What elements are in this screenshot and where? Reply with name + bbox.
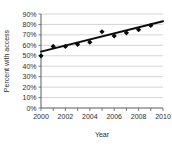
x-axis-tick-label: 2004 <box>82 113 98 120</box>
data-point <box>38 53 43 58</box>
y-axis-tick-label: 10% <box>22 94 36 101</box>
x-axis-tick-label: 2002 <box>58 113 74 120</box>
x-axis-tick-label: 2008 <box>131 113 147 120</box>
tickmarks-group <box>39 14 164 111</box>
x-axis-tick-label: 2010 <box>155 113 171 120</box>
x-axis-tick-label: 2000 <box>33 113 49 120</box>
y-axis-tick-label: 70% <box>22 31 36 38</box>
data-point <box>99 29 104 34</box>
y-axis-tick-label: 30% <box>22 73 36 80</box>
y-axis-tick-label: 40% <box>22 63 36 70</box>
y-axis-title: Percent with access <box>3 29 10 92</box>
y-axis-tick-labels: 0%10%20%30%40%50%60%70%80%90% <box>22 11 36 112</box>
y-axis-tick-label: 90% <box>22 11 36 18</box>
trend-line <box>41 21 163 51</box>
x-axis-tick-label: 2006 <box>106 113 122 120</box>
chart-container: 0%10%20%30%40%50%60%70%80%90% 2000200220… <box>0 0 172 144</box>
scatter-plot: 0%10%20%30%40%50%60%70%80%90% 2000200220… <box>0 0 172 144</box>
x-axis-tick-labels: 200020022004200620082010 <box>33 113 171 120</box>
y-axis-tick-label: 80% <box>22 21 36 28</box>
y-axis-tick-label: 20% <box>22 84 36 91</box>
x-axis-title: Year <box>95 131 110 138</box>
y-axis-tick-label: 50% <box>22 52 36 59</box>
y-axis-tick-label: 60% <box>22 42 36 49</box>
y-axis-tick-label: 0% <box>26 105 36 112</box>
